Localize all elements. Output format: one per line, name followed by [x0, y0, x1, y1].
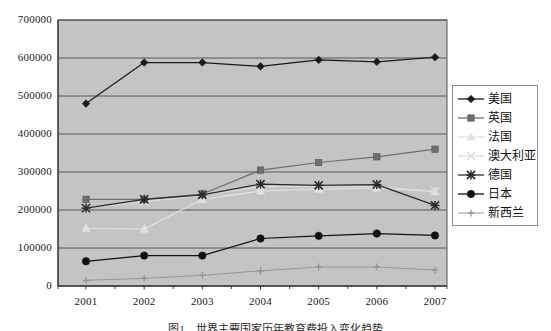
data-point-marker: [256, 180, 265, 189]
legend-label: 德国: [488, 168, 512, 182]
data-point-marker: [198, 190, 207, 199]
data-point-marker: [467, 95, 475, 103]
legend-marker-triangle-icon: [457, 130, 485, 144]
legend-marker-square-icon: [457, 111, 485, 125]
legend-item-1[interactable]: 美国: [455, 89, 535, 108]
legend-label: 澳大利亚: [488, 149, 536, 163]
data-point-marker: [257, 167, 263, 173]
legend-label: 日本: [488, 187, 512, 201]
y-axis-tick-label: 400000: [4, 127, 52, 139]
data-point-marker: [467, 170, 476, 179]
data-point-marker: [314, 181, 323, 190]
legend-marker-asterisk-icon: [457, 168, 485, 182]
legend-label: 法国: [488, 130, 512, 144]
data-point-marker: [432, 146, 438, 152]
x-axis-tick-label: 2001: [61, 295, 111, 307]
chart-screenshot: 0100000200000300000400000500000600000700…: [0, 0, 551, 331]
legend-item-6[interactable]: 日本: [455, 184, 535, 203]
data-point-marker: [82, 258, 89, 265]
data-point-marker: [372, 180, 381, 189]
y-axis-tick-label: 600000: [4, 51, 52, 63]
legend-marker-plus-icon: [457, 206, 485, 220]
y-axis-tick-label: 100000: [4, 241, 52, 253]
data-point-marker: [82, 204, 91, 213]
x-axis-tick-label: 2005: [294, 295, 344, 307]
data-point-marker: [374, 154, 380, 160]
data-point-marker: [373, 230, 380, 237]
y-axis-tick-label: 700000: [4, 13, 52, 25]
y-axis-tick-label: 500000: [4, 89, 52, 101]
y-axis-tick-label: 0: [4, 279, 52, 291]
x-axis-tick-label: 2002: [119, 295, 169, 307]
legend-item-4[interactable]: 澳大利亚: [455, 146, 535, 165]
data-point-marker: [468, 209, 475, 216]
data-point-marker: [257, 235, 264, 242]
data-point-marker: [468, 114, 474, 120]
chart-legend: 美国英国法国澳大利亚德国日本新西兰: [452, 85, 538, 226]
data-point-marker: [315, 232, 322, 239]
legend-item-2[interactable]: 英国: [455, 108, 535, 127]
x-axis-tick-label: 2003: [177, 295, 227, 307]
legend-item-7[interactable]: 新西兰: [455, 203, 535, 222]
y-axis-tick-label: 200000: [4, 203, 52, 215]
plot-background: [58, 20, 447, 286]
legend-marker-circle-icon: [457, 187, 485, 201]
data-point-marker: [431, 232, 438, 239]
data-point-marker: [199, 252, 206, 259]
legend-marker-cross-x-icon: [457, 149, 485, 163]
legend-label: 美国: [488, 92, 512, 106]
legend-marker-diamond-icon: [457, 92, 485, 106]
legend-item-5[interactable]: 德国: [455, 165, 535, 184]
data-point-marker: [431, 201, 440, 210]
y-axis-tick-label: 300000: [4, 165, 52, 177]
x-axis-tick-label: 2007: [410, 295, 460, 307]
plot-area: [58, 20, 447, 290]
data-point-marker: [315, 159, 321, 165]
legend-item-3[interactable]: 法国: [455, 127, 535, 146]
data-point-marker: [83, 196, 89, 202]
x-axis-tick-label: 2004: [236, 295, 286, 307]
data-point-marker: [140, 252, 147, 259]
legend-label: 新西兰: [488, 206, 524, 220]
figure-caption: 图1 世界主要国家历年教育费投入变化趋势: [0, 320, 551, 331]
data-point-marker: [467, 190, 474, 197]
data-point-marker: [140, 195, 149, 204]
x-axis-tick-label: 2006: [352, 295, 402, 307]
legend-label: 英国: [488, 111, 512, 125]
